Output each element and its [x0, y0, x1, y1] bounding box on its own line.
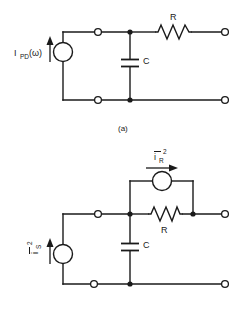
- junction-b-top-center: [127, 211, 132, 216]
- snoise-label-sub: S: [35, 244, 42, 249]
- resistor-noise-current-source-symbol: [153, 172, 172, 191]
- source-snoise-arrow-head: [47, 238, 54, 247]
- snoise-label-sup: 2: [26, 241, 33, 245]
- terminal-a-top-left[interactable]: [95, 29, 102, 36]
- rnoise-label-sup: 2: [163, 148, 167, 155]
- circuit-b-group: i R 2 i S 2 C R: [26, 148, 228, 287]
- terminal-a-top-right[interactable]: [222, 29, 229, 36]
- junction-a-top: [127, 29, 132, 34]
- terminal-b-top-left[interactable]: [95, 211, 102, 218]
- resistor-b-label: R: [161, 225, 168, 235]
- figure-root: I PD (ω) C R (a): [0, 0, 248, 309]
- rnoise-label-main: i: [154, 152, 156, 162]
- rnoise-label-sub: R: [159, 157, 164, 164]
- junction-b-bottom-center: [127, 281, 132, 286]
- circuit-a-group: I PD (ω) C R (a): [14, 12, 228, 133]
- snoise-label-main: i: [30, 252, 40, 254]
- source-a-label-main: I: [14, 48, 17, 58]
- snoise-label-group: i S 2: [26, 241, 42, 254]
- terminal-a-bottom-left[interactable]: [95, 97, 102, 104]
- terminal-b-bottom-left[interactable]: [91, 281, 98, 288]
- caption-a: (a): [118, 124, 128, 133]
- resistor-b-symbol: [148, 207, 183, 221]
- terminal-a-bottom-right[interactable]: [222, 97, 229, 104]
- signal-noise-current-source-symbol: [54, 245, 73, 264]
- capacitor-b-label: C: [143, 240, 150, 250]
- capacitor-a-label: C: [143, 56, 150, 66]
- terminal-b-top-right[interactable]: [222, 211, 229, 218]
- source-rnoise-arrow-head: [169, 165, 178, 172]
- source-a-label-sub: PD: [20, 53, 29, 60]
- terminal-b-bottom-right[interactable]: [222, 281, 229, 288]
- junction-b-top-right: [190, 211, 195, 216]
- photodiode-current-source-symbol: [54, 43, 73, 62]
- source-a-arrow-head: [47, 36, 54, 45]
- circuit-diagram-svg: I PD (ω) C R (a): [0, 0, 248, 309]
- resistor-a-label: R: [170, 12, 177, 22]
- resistor-a-symbol: [155, 25, 192, 39]
- source-a-label-arg: (ω): [29, 48, 42, 58]
- junction-a-bottom: [127, 97, 132, 102]
